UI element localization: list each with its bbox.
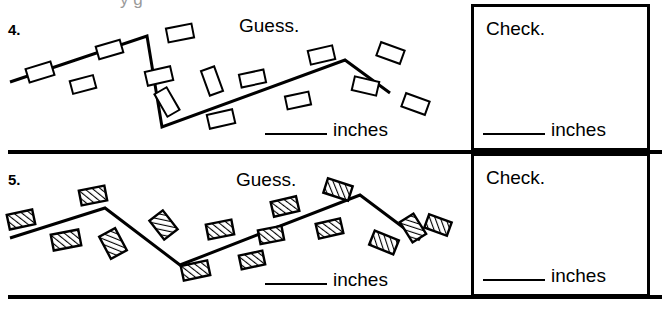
check-label-row4: Check. [486, 19, 545, 38]
zigzag-path-row4 [10, 36, 390, 127]
unit-rectangle [166, 24, 194, 43]
check-blank-row5[interactable] [483, 279, 545, 281]
zigzag-path-row5 [10, 195, 420, 265]
check-blank-row4[interactable] [483, 133, 545, 135]
unit-rectangle [308, 45, 336, 64]
unit-rectangle [206, 220, 234, 240]
check-box-row5[interactable]: Check. inches [471, 153, 650, 297]
unit-rectangle [154, 87, 179, 117]
unit-rectangle [271, 196, 300, 216]
item-number-5: 5. [8, 172, 21, 187]
unit-rectangle [239, 70, 266, 88]
unit-rectangle [207, 109, 235, 128]
unit-rectangle [149, 210, 177, 239]
unit-rectangle [239, 251, 265, 270]
unit-rectangle [201, 66, 223, 95]
worksheet-page: y g 4. Guess. inches Check. inches 5. Gu… [0, 0, 662, 311]
unit-rectangle [424, 214, 451, 235]
check-label-row5: Check. [486, 168, 545, 187]
guess-label-row4: Guess. [239, 16, 299, 35]
unit-rectangle [99, 228, 127, 259]
unit-rectangle [145, 66, 173, 85]
guess-blank-row4[interactable] [265, 133, 327, 135]
unit-rectangle [369, 231, 399, 255]
unit-rectangle [352, 76, 380, 95]
guess-answer-row5[interactable]: inches [265, 270, 388, 289]
markers-row5 [7, 178, 452, 280]
item-number-4: 4. [8, 22, 21, 37]
check-answer-row4[interactable]: inches [483, 120, 606, 139]
unit-rectangle [7, 209, 36, 229]
unit-rectangle [70, 75, 97, 94]
guess-blank-row5[interactable] [265, 283, 327, 285]
check-unit-row5: inches [551, 266, 606, 285]
guess-answer-row4[interactable]: inches [265, 120, 388, 139]
unit-rectangle [79, 186, 107, 206]
unit-rectangle [376, 42, 404, 64]
unit-rectangle [258, 226, 284, 244]
check-unit-row4: inches [551, 120, 606, 139]
check-answer-row5[interactable]: inches [483, 266, 606, 285]
unit-rectangle [285, 92, 311, 110]
clipped-top-text: y g [120, 0, 143, 8]
check-box-row4[interactable]: Check. inches [471, 4, 650, 151]
guess-unit-row4: inches [333, 120, 388, 139]
unit-rectangle [96, 40, 124, 59]
guess-label-row5: Guess. [236, 170, 296, 189]
unit-rectangle [26, 62, 55, 83]
guess-unit-row5: inches [333, 270, 388, 289]
unit-rectangle [51, 229, 82, 250]
unit-rectangle [316, 218, 344, 238]
unit-rectangle [400, 214, 426, 243]
unit-rectangle [323, 178, 352, 200]
markers-row4 [26, 24, 430, 129]
unit-rectangle [181, 260, 211, 280]
unit-rectangle [401, 93, 429, 115]
